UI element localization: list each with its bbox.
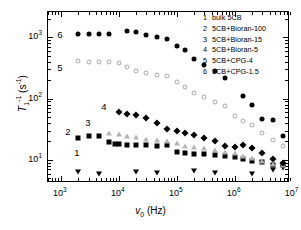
curve-number-4: 4	[101, 102, 106, 112]
data-point	[231, 143, 238, 150]
axis-tick	[290, 178, 291, 181]
data-point	[165, 73, 170, 78]
data-point	[212, 138, 219, 145]
legend-item-key: 6	[196, 67, 207, 78]
x-axis-title: v0 (Hz)	[0, 205, 301, 216]
data-point	[240, 153, 246, 158]
data-point	[191, 144, 197, 149]
data-point	[250, 123, 255, 128]
data-point	[154, 119, 161, 126]
data-point	[183, 85, 188, 90]
legend-item-label: 5CB+CPG-4	[212, 56, 253, 67]
data-point	[164, 125, 171, 132]
legend-item-1: 1bulk 5CB	[196, 13, 266, 24]
axis-tick	[290, 12, 291, 15]
data-point	[86, 59, 91, 64]
data-point	[134, 143, 139, 148]
data-point	[174, 80, 179, 85]
data-point	[133, 170, 139, 175]
data-point	[192, 90, 197, 95]
data-point	[271, 117, 276, 122]
y-axis-title: T1-1 (s-1)	[17, 49, 28, 139]
data-point	[240, 141, 247, 148]
data-point	[97, 133, 102, 138]
data-point	[143, 136, 149, 141]
legend-item-label: 5CB+CPG-1.5	[212, 67, 259, 78]
data-point	[107, 31, 112, 36]
data-point	[201, 134, 208, 141]
data-point	[260, 130, 265, 135]
data-point	[125, 28, 130, 33]
legend-item-label: 5CB+Bioran-100	[212, 24, 266, 35]
legend: 1bulk 5CB25CB+Bioran-10035CB+Bioran-1545…	[196, 13, 266, 78]
data-point	[249, 145, 256, 152]
data-point	[249, 171, 255, 176]
data-point	[212, 148, 218, 153]
data-point	[232, 114, 237, 119]
legend-item-key: 3	[196, 35, 207, 46]
legend-item-6: 65CB+CPG-1.5	[196, 67, 266, 78]
data-point	[96, 171, 102, 176]
data-point	[143, 115, 150, 122]
curve-number-5: 5	[57, 63, 62, 73]
data-point	[165, 36, 170, 41]
data-point	[249, 155, 255, 160]
data-point	[164, 139, 170, 144]
data-point	[174, 140, 180, 145]
data-point	[259, 149, 266, 156]
data-point	[280, 133, 285, 138]
data-point	[232, 151, 238, 156]
data-point	[212, 170, 218, 175]
data-point	[116, 61, 121, 66]
data-point	[144, 32, 149, 37]
data-point	[250, 103, 255, 108]
legend-item-label: 5CB+Bioran-5	[212, 45, 258, 56]
x-tick-label: 103	[53, 189, 67, 198]
data-point	[154, 170, 160, 175]
x-tick-label: 104	[111, 189, 125, 198]
data-point	[191, 168, 197, 173]
data-point	[213, 100, 218, 105]
data-point	[144, 143, 149, 148]
legend-item-label: 5CB+Bioran-15	[212, 35, 262, 46]
data-point	[270, 167, 276, 172]
legend-item-2: 25CB+Bioran-100	[196, 24, 266, 35]
data-point	[201, 146, 207, 151]
data-point	[124, 133, 130, 138]
legend-item-5: 55CB+CPG-4	[196, 56, 266, 67]
data-point	[183, 48, 188, 53]
legend-item-key: 4	[196, 45, 207, 56]
curve-number-3: 3	[85, 118, 90, 128]
data-point	[222, 149, 228, 154]
data-point	[182, 143, 188, 148]
data-point	[280, 143, 285, 148]
curve-number-6: 6	[57, 30, 62, 40]
y-tick-label: 101	[18, 154, 42, 163]
data-point	[222, 104, 227, 109]
data-point	[182, 129, 189, 136]
legend-item-key: 1	[196, 13, 207, 24]
y-tick-label: 103	[18, 32, 42, 41]
data-point	[115, 109, 122, 116]
data-point	[192, 151, 197, 156]
data-point	[133, 111, 140, 118]
data-point	[183, 151, 188, 156]
data-point	[76, 59, 81, 64]
data-point	[173, 127, 180, 134]
legend-item-key: 2	[196, 24, 207, 35]
data-point	[76, 135, 81, 140]
data-point	[155, 73, 160, 78]
data-point	[202, 95, 207, 100]
data-point	[202, 152, 207, 157]
data-point	[155, 143, 160, 148]
curve-number-2: 2	[65, 127, 70, 137]
data-point	[155, 34, 160, 39]
data-point	[271, 138, 276, 143]
data-point	[241, 94, 246, 99]
data-point	[76, 31, 81, 36]
data-point	[134, 69, 139, 74]
data-point	[125, 64, 130, 69]
data-point	[107, 59, 112, 64]
data-point	[154, 138, 160, 143]
data-point	[221, 142, 228, 149]
